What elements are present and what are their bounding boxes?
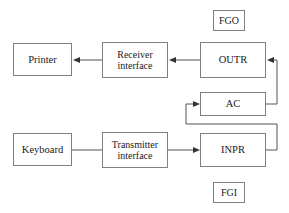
block-diagram: FGO Printer Receiver interface OUTR AC K… <box>0 0 289 213</box>
node-inpr-label: INPR <box>221 144 245 156</box>
node-transmitter-interface-label: Transmitter interface <box>112 139 158 161</box>
connector-transmitter-to-inpr <box>168 147 200 153</box>
node-transmitter-interface[interactable]: Transmitter interface <box>102 132 168 168</box>
node-outr[interactable]: OUTR <box>200 42 266 78</box>
node-keyboard[interactable]: Keyboard <box>13 133 72 166</box>
node-fgo[interactable]: FGO <box>213 10 245 31</box>
node-printer[interactable]: Printer <box>13 43 72 76</box>
node-receiver-interface[interactable]: Receiver interface <box>102 42 168 78</box>
node-fgo-label: FGO <box>219 15 239 26</box>
node-fgi-label: FGI <box>221 187 237 198</box>
node-inpr[interactable]: INPR <box>200 133 266 167</box>
node-fgi[interactable]: FGI <box>213 182 245 203</box>
node-keyboard-label: Keyboard <box>22 144 63 156</box>
node-outr-label: OUTR <box>219 54 248 66</box>
connector-ac-to-outr <box>266 57 277 104</box>
node-printer-label: Printer <box>28 54 57 66</box>
node-ac[interactable]: AC <box>200 92 266 116</box>
node-ac-label: AC <box>226 98 241 110</box>
node-receiver-interface-label: Receiver interface <box>117 49 153 71</box>
connector-outr-to-receiver <box>169 57 200 63</box>
connector-receiver-to-printer <box>73 57 102 63</box>
